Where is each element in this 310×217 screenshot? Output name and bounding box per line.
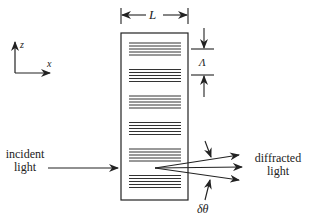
- grating-fringes: [129, 43, 181, 188]
- diffracted-rays: [155, 155, 242, 180]
- x-axis-label: x: [47, 57, 51, 70]
- grating-diagram: z x L Λ δθ incident light diffracted lig…: [0, 0, 310, 217]
- angle-label: δθ: [197, 203, 208, 216]
- grating-box: [121, 33, 188, 200]
- z-axis-label: z: [20, 38, 24, 51]
- thickness-label: L: [149, 8, 156, 21]
- diffracted-light-label: diffracted light: [248, 152, 308, 178]
- diagram-drawing: [0, 0, 310, 217]
- incident-light-label: incident light: [2, 148, 48, 174]
- angle-dimension: [205, 141, 211, 200]
- period-label: Λ: [199, 56, 206, 69]
